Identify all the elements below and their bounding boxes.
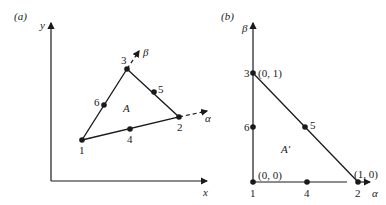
node-2-a [176, 114, 182, 120]
coord-label: (1, 0) [354, 168, 378, 181]
panel-a: (a) y x α β A 1 2 3 4 5 6 [14, 10, 211, 198]
node-label: 6 [244, 121, 250, 133]
node-5-a [151, 89, 157, 95]
region-b-label: A′ [280, 143, 291, 155]
node-2-b [355, 179, 361, 185]
alpha-axis-label-b: α [372, 187, 378, 199]
alpha-label-a: α [205, 112, 211, 124]
node-4-a [127, 126, 133, 132]
node-label: 5 [158, 83, 164, 95]
x-axis-label: x [202, 186, 208, 198]
node-label: 5 [310, 119, 316, 131]
panel-b: (b) β α A′ 1 2 3 4 5 6 (0, 1) (0, 0) (1,… [221, 10, 378, 199]
beta-label-a: β [142, 46, 149, 58]
coord-label: (0, 1) [258, 67, 282, 80]
finite-element-mapping-diagram: (a) y x α β A 1 2 3 4 5 6 (b) [0, 0, 386, 205]
node-label: 3 [121, 54, 127, 66]
node-label: 2 [355, 187, 361, 199]
node-4-b [304, 179, 310, 185]
node-5-b [302, 124, 308, 130]
region-a-label: A [122, 102, 130, 114]
node-label: 6 [94, 96, 100, 108]
node-label: 1 [250, 187, 256, 199]
node-label: 3 [244, 67, 250, 79]
nodes-a: 1 2 3 4 5 6 [79, 54, 183, 156]
node-label: 4 [304, 187, 310, 199]
panel-a-label: (a) [14, 10, 27, 23]
coord-label: (0, 0) [258, 169, 282, 182]
node-label: 2 [177, 121, 183, 133]
node-3-a [124, 66, 130, 72]
node-1-b [250, 179, 256, 185]
panel-b-label: (b) [221, 10, 234, 23]
node-6-a [101, 102, 107, 108]
y-axis-label: y [39, 19, 45, 31]
node-label: 1 [79, 144, 85, 156]
node-6-b [250, 124, 256, 130]
beta-axis-a [127, 51, 139, 69]
node-label: 4 [127, 133, 133, 145]
node-3-b [250, 70, 256, 76]
node-1-a [79, 137, 85, 143]
alpha-axis-a [179, 111, 207, 117]
beta-axis-label-b: β [241, 22, 248, 34]
